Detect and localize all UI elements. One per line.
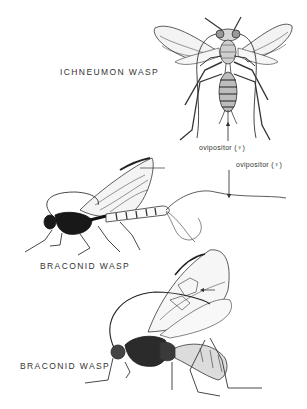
braconid-2-abdomen bbox=[175, 344, 227, 380]
braconid-wasp-1-drawing bbox=[25, 158, 286, 255]
braconid-wasp-1-label: BRACONID WASP bbox=[40, 261, 130, 271]
braconid-1-wing bbox=[80, 158, 153, 217]
braconid-wasp-2-label: BRACONID WASP bbox=[20, 361, 110, 371]
ichneumon-ovipositor-annotation: ovipositor (♀) bbox=[199, 144, 245, 151]
braconid-1-ovipositor-annotation: ovipositor (♀) bbox=[236, 161, 282, 168]
ichneumon-wasp-label: ICHNEUMON WASP bbox=[60, 67, 159, 77]
braconid-wasp-2-drawing bbox=[85, 250, 262, 396]
illustration-canvas bbox=[0, 0, 307, 409]
ichneumon-wasp-drawing bbox=[154, 17, 292, 141]
